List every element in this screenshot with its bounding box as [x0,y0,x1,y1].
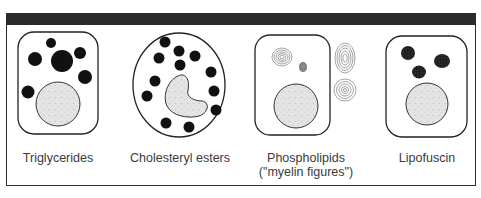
nucleus [406,83,448,125]
panel-triglycerides [18,32,98,134]
label-line: Triglycerides [23,151,93,165]
myelin-figure [335,43,355,73]
lipofuscin-granule [434,54,450,68]
ester-droplet [190,51,201,62]
label-line: ("myelin figures") [259,165,353,179]
ester-droplet [174,46,185,57]
ester-droplet [206,67,217,78]
ester-droplet [211,105,222,116]
label-cholesteryl-esters: Cholesteryl esters [130,151,230,165]
ester-droplet [142,91,153,102]
nucleus [36,82,80,126]
small-vacuole [300,63,307,72]
ester-droplet [184,122,195,133]
ester-droplet [175,60,186,71]
lipofuscin-granule [412,66,426,79]
panel-phospholipids [255,35,356,135]
ester-droplet [160,37,171,48]
lipid-droplet [46,38,56,48]
ester-droplet [161,118,172,129]
label-line: Lipofuscin [399,151,455,165]
panel-cholesteryl-esters [133,33,225,137]
lipofuscin-granule [401,46,415,60]
figure-artwork [0,0,481,198]
lipid-droplet [22,86,35,99]
nucleus [274,84,318,128]
ester-droplet [154,53,165,64]
panel-lipofuscin [386,36,467,137]
label-triglycerides: Triglycerides [23,151,93,165]
myelin-figure [334,79,356,101]
label-line: Cholesteryl esters [130,151,230,165]
lipid-droplet [28,52,42,66]
myelin-figure [272,48,292,66]
label-phospholipids: Phospholipids ("myelin figures") [259,151,353,179]
lipid-droplet [74,47,86,59]
ester-droplet [150,76,161,87]
ester-droplet [209,86,220,97]
label-line: Phospholipids [259,151,353,165]
label-lipofuscin: Lipofuscin [399,151,455,165]
lipid-droplet [78,70,92,84]
nucleus [165,75,207,117]
lipid-droplet [51,50,73,72]
